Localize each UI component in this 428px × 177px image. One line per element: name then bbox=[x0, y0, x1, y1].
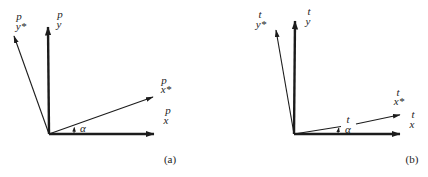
b-y-axis-arrow bbox=[294, 21, 295, 134]
a-x-star-axis-arrow bbox=[49, 97, 153, 134]
a-y-star-label-axis: y* bbox=[15, 20, 27, 32]
a-angle-label: α bbox=[80, 122, 86, 134]
b-angle-tick-arrow bbox=[338, 128, 339, 133]
a-y-axis-arrow bbox=[48, 27, 49, 134]
diagram-b: t y* t y t x* t x t α (b) bbox=[255, 5, 419, 166]
caption-a: (a) bbox=[164, 153, 177, 166]
a-x-label-axis: x bbox=[163, 114, 169, 126]
b-angle-label: α bbox=[345, 123, 351, 135]
b-y-star-label-axis: y* bbox=[255, 18, 267, 30]
b-x-star-label-axis: x* bbox=[393, 95, 405, 107]
a-y-star-axis-arrow bbox=[14, 36, 49, 134]
a-x-star-label-axis: x* bbox=[160, 83, 172, 95]
caption-b: (b) bbox=[406, 153, 419, 166]
b-y-label-axis: y bbox=[305, 15, 311, 27]
b-y-star-axis-arrow bbox=[276, 30, 294, 134]
b-x-star-axis-arrow bbox=[356, 115, 400, 124]
axes-rotation-figure: p y* p y p x* p x α (a) t y* t y t bbox=[0, 0, 428, 177]
diagram-a: p y* p y p x* p x α (a) bbox=[14, 8, 176, 166]
a-y-label-axis: y bbox=[56, 18, 62, 30]
b-x-label-axis: x bbox=[409, 118, 415, 130]
